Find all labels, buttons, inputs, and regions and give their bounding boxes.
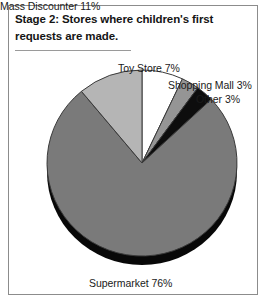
slice-label-other: Other 3% xyxy=(196,93,240,106)
slice-label-supermarket: Supermarket 76% xyxy=(89,277,172,290)
slice-label-mass-discounter: Mass Discounter 11% xyxy=(0,0,100,13)
slice-label-shopping-mall: Shopping Mall 3% xyxy=(168,79,252,92)
slice-label-toy-store: Toy Store 7% xyxy=(118,62,180,75)
pie-svg xyxy=(0,0,269,305)
pie-chart-figure: Stage 2: Stores where children's first r… xyxy=(0,0,269,305)
pie-plot-area xyxy=(0,0,269,305)
